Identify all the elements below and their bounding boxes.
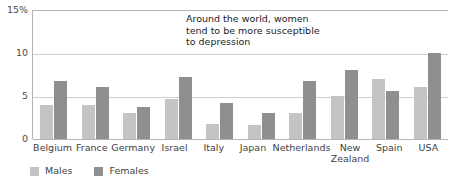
legend-label-females: Females bbox=[109, 166, 148, 176]
bar-males-netherlands bbox=[289, 113, 302, 139]
bar-females-israel bbox=[179, 77, 192, 139]
x-label-usa-text: USA bbox=[409, 142, 448, 153]
bar-females-new-zealand bbox=[345, 70, 358, 139]
bar-females-japan bbox=[262, 113, 275, 139]
x-axis-labels: Belgium France Germany Israel Italy Japa… bbox=[33, 142, 448, 164]
males-swatch-icon bbox=[30, 167, 39, 176]
x-label-italy-text: Italy bbox=[194, 142, 233, 153]
legend: Males Females bbox=[30, 166, 149, 176]
bar-females-netherlands bbox=[303, 81, 316, 139]
x-label-spain-text: Spain bbox=[370, 142, 409, 153]
bar-males-usa bbox=[414, 87, 427, 139]
x-label-netherlands: Netherlands bbox=[273, 142, 331, 164]
y-tick-0: 0 bbox=[22, 134, 28, 144]
chart-annotation: Around the world, women tend to be more … bbox=[186, 13, 320, 48]
bar-males-belgium bbox=[40, 105, 53, 139]
bar-males-japan bbox=[248, 125, 261, 139]
x-label-usa: USA bbox=[409, 142, 448, 164]
bar-males-italy bbox=[206, 124, 219, 139]
x-label-new-zealand-line: Zealand bbox=[330, 153, 369, 164]
bar-group-germany bbox=[116, 10, 158, 139]
x-label-germany: Germany bbox=[111, 142, 155, 164]
bar-females-italy bbox=[220, 103, 233, 139]
x-label-belgium-text: Belgium bbox=[33, 142, 72, 153]
y-axis: 15% 10 5 0 bbox=[0, 10, 28, 139]
bar-group-usa bbox=[407, 10, 449, 139]
x-label-japan-text: Japan bbox=[233, 142, 272, 153]
x-label-new-zealand-line: New bbox=[330, 142, 369, 153]
x-label-israel: Israel bbox=[155, 142, 194, 164]
females-swatch-icon bbox=[94, 167, 103, 176]
bar-group-spain bbox=[365, 10, 407, 139]
x-label-new-zealand-text: NewZealand bbox=[330, 142, 369, 164]
bar-males-israel bbox=[165, 99, 178, 139]
bar-males-new-zealand bbox=[331, 96, 344, 139]
legend-label-males: Males bbox=[45, 166, 72, 176]
bar-males-spain bbox=[372, 79, 385, 139]
legend-item-males[interactable]: Males bbox=[30, 166, 72, 176]
legend-item-females[interactable]: Females bbox=[94, 166, 148, 176]
x-label-germany-text: Germany bbox=[111, 142, 155, 153]
x-label-netherlands-text: Netherlands bbox=[273, 142, 331, 153]
bar-males-germany bbox=[123, 113, 136, 139]
gridline-0-baseline bbox=[33, 139, 448, 140]
x-label-italy: Italy bbox=[194, 142, 233, 164]
x-label-israel-text: Israel bbox=[155, 142, 194, 153]
bar-group-belgium bbox=[33, 10, 75, 139]
bar-females-belgium bbox=[54, 81, 67, 139]
y-tick-10: 10 bbox=[16, 48, 28, 58]
bar-group-france bbox=[75, 10, 117, 139]
x-label-new-zealand: NewZealand bbox=[330, 142, 369, 164]
depression-by-gender-bar-chart: 15% 10 5 0 bbox=[0, 0, 455, 184]
bar-males-france bbox=[82, 105, 95, 139]
x-label-france-text: France bbox=[72, 142, 111, 153]
bar-females-germany bbox=[137, 107, 150, 139]
y-tick-5: 5 bbox=[22, 91, 28, 101]
bar-females-france bbox=[96, 87, 109, 139]
x-label-france: France bbox=[72, 142, 111, 164]
y-tick-15: 15% bbox=[7, 5, 28, 15]
bar-group-new-zealand bbox=[324, 10, 366, 139]
x-label-japan: Japan bbox=[233, 142, 272, 164]
x-label-spain: Spain bbox=[370, 142, 409, 164]
bar-females-spain bbox=[386, 91, 399, 139]
x-label-belgium: Belgium bbox=[33, 142, 72, 164]
bar-females-usa bbox=[428, 53, 441, 139]
